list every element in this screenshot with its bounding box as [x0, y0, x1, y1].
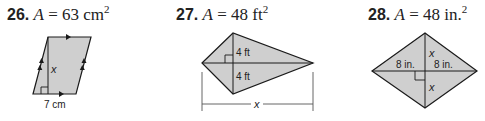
upper-half-label: x: [428, 47, 435, 59]
right-half-label: 8 in.: [434, 59, 453, 70]
base-label: 7 cm: [44, 99, 66, 110]
height-label: x: [50, 63, 57, 75]
parallelogram-figure: x 7 cm: [33, 34, 91, 110]
lower-half-label: x: [428, 81, 435, 93]
lower-half-label: 4 ft: [236, 71, 250, 82]
upper-half-label: 4 ft: [236, 47, 250, 58]
left-half-label: 8 in.: [396, 59, 415, 70]
kite-figure: 4 ft 4 ft x: [202, 33, 313, 111]
figures: x 7 cm 4 ft 4 ft x 8 in. 8 in. x x: [0, 0, 485, 121]
width-label: x: [253, 98, 260, 110]
rhombus-figure: 8 in. 8 in. x x: [372, 33, 477, 108]
